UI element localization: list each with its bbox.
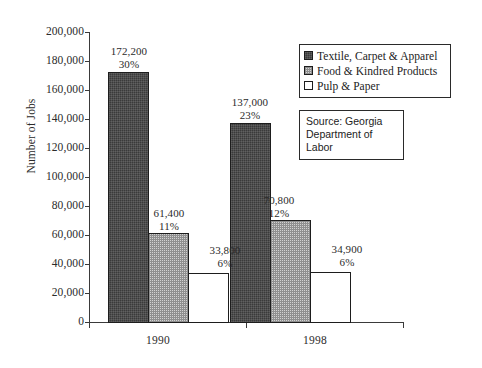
bar-value-textile-1998: 137,000: [232, 96, 268, 108]
bar-chart: Number of Jobs 020,00040,00060,00080,000…: [0, 0, 482, 368]
bar-value-label-textile-1998: 137,000 23%: [219, 96, 281, 121]
y-tick-mark: [85, 264, 90, 265]
source-note-line-3: Labor: [306, 141, 397, 154]
source-note-line-1: Source: Georgia: [306, 115, 397, 128]
bar-value-label-pulp-1990: 33,800 6%: [194, 244, 256, 269]
bar-percent-pulp-1990: 6%: [194, 257, 256, 270]
y-tick-label: 120,000: [26, 141, 84, 153]
y-tick-mark: [85, 206, 90, 207]
y-tick-mark: [85, 90, 90, 91]
legend-item-textile: Textile, Carpet & Apparel: [304, 48, 446, 63]
y-tick-label: 140,000: [26, 112, 84, 124]
y-tick-mark: [85, 119, 90, 120]
legend-label-pulp: Pulp & Paper: [317, 80, 380, 92]
source-note-box: Source: Georgia Department of Labor: [299, 110, 404, 160]
y-tick-mark: [85, 177, 90, 178]
bar-value-label-pulp-1998: 34,900 6%: [316, 243, 378, 268]
bar-value-pulp-1990: 33,800: [210, 244, 241, 256]
bar-textile-1990: [108, 72, 149, 323]
x-tick-mark: [403, 323, 404, 328]
y-tick-mark: [85, 293, 90, 294]
bar-pulp-1998: [310, 272, 351, 323]
bar-value-food-1990: 61,400: [154, 207, 185, 219]
y-tick-label: 60,000: [26, 228, 84, 240]
x-category-label-1990: 1990: [113, 334, 203, 346]
legend-item-food: Food & Kindred Products: [304, 63, 446, 78]
bar-value-textile-1990: 172,200: [111, 45, 147, 57]
y-tick-mark: [85, 148, 90, 149]
bar-percent-textile-1998: 23%: [219, 109, 281, 122]
chart-legend: Textile, Carpet & Apparel Food & Kindred…: [299, 44, 451, 98]
bar-value-pulp-1998: 34,900: [332, 243, 363, 255]
y-tick-mark: [85, 235, 90, 236]
y-tick-label: 20,000: [26, 286, 84, 298]
bar-percent-food-1990: 11%: [138, 220, 200, 233]
legend-label-textile: Textile, Carpet & Apparel: [317, 50, 438, 62]
bar-food-1998: [270, 220, 311, 323]
y-tick-label: 180,000: [26, 54, 84, 66]
legend-swatch-icon-pulp: [304, 81, 313, 90]
legend-swatch-icon-textile: [304, 51, 313, 60]
bar-value-label-food-1990: 61,400 11%: [138, 207, 200, 232]
y-tick-mark: [85, 32, 90, 33]
bar-value-label-food-1998: 70,800 12%: [248, 194, 310, 219]
x-category-label-1998: 1998: [270, 334, 360, 346]
y-tick-mark: [85, 61, 90, 62]
y-tick-label: 160,000: [26, 83, 84, 95]
bar-percent-textile-1990: 30%: [98, 58, 160, 71]
bar-value-food-1998: 70,800: [264, 194, 295, 206]
legend-item-pulp: Pulp & Paper: [304, 78, 446, 93]
y-tick-label: 0: [26, 315, 84, 327]
y-tick-label: 80,000: [26, 199, 84, 211]
y-tick-label: 100,000: [26, 170, 84, 182]
bar-pulp-1990: [188, 273, 229, 323]
y-tick-label: 200,000: [26, 25, 84, 37]
bar-food-1990: [148, 233, 189, 323]
bar-percent-food-1998: 12%: [248, 207, 310, 220]
x-tick-mark: [246, 323, 247, 328]
legend-swatch-icon-food: [304, 66, 313, 75]
bar-textile-1998: [230, 123, 271, 323]
source-note-line-2: Department of: [306, 128, 397, 141]
bar-value-label-textile-1990: 172,200 30%: [98, 45, 160, 70]
bar-percent-pulp-1998: 6%: [316, 256, 378, 269]
legend-label-food: Food & Kindred Products: [317, 65, 437, 77]
y-tick-label: 40,000: [26, 257, 84, 269]
x-tick-mark: [89, 323, 90, 328]
